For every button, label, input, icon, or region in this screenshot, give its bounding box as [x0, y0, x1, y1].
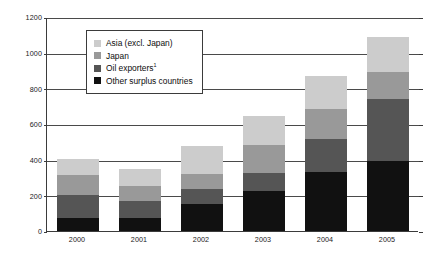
legend-swatch-icon: [94, 77, 101, 84]
bar-segment: [181, 174, 223, 189]
y-axis-tick-label: 200: [8, 193, 42, 200]
footnote-marker: 1: [153, 62, 156, 68]
bar-segment: [243, 145, 285, 173]
bar-segment: [119, 186, 161, 200]
bar-stack-2002: [181, 146, 223, 231]
x-axis-tick-label: 2002: [170, 236, 232, 243]
y-axis-tick-mark-right: [419, 125, 423, 126]
y-axis-tick-label: 0: [8, 228, 42, 235]
y-axis-tick-label: 1200: [8, 14, 42, 21]
bar-stack-2004: [305, 76, 347, 231]
bar-segment: [305, 109, 347, 139]
bar-stack-2005: [367, 37, 409, 231]
legend-swatch-icon: [94, 52, 101, 59]
chart-legend: Asia (excl. Japan)JapanOil exporters1Oth…: [86, 30, 203, 94]
bar-stack-2000: [57, 159, 99, 231]
y-axis-tick-mark: [44, 161, 48, 162]
bar-segment: [57, 218, 99, 231]
y-axis-tick-mark-right: [419, 232, 423, 233]
y-axis-tick-mark-right: [419, 161, 423, 162]
legend-item-label: Other surplus countries: [106, 77, 193, 85]
y-axis-tick-label: 400: [8, 157, 42, 164]
bar-segment: [243, 173, 285, 191]
y-axis-tick-mark: [44, 125, 48, 126]
stacked-bar-chart: 020040060080010001200 200020012002200320…: [0, 0, 431, 259]
bar-segment: [119, 169, 161, 186]
bar-segment: [243, 191, 285, 231]
y-axis-tick-mark: [44, 18, 48, 19]
x-axis-tick-label: 2004: [294, 236, 356, 243]
y-axis-tick-label: 1000: [8, 50, 42, 57]
bar-segment: [119, 218, 161, 231]
bar-segment: [305, 172, 347, 231]
bar-segment: [367, 72, 409, 99]
gridline: [47, 161, 419, 162]
y-axis-tick-mark: [44, 54, 48, 55]
bar-segment: [305, 139, 347, 172]
x-axis-tick-label: 2005: [356, 236, 418, 243]
y-axis-tick-mark: [44, 196, 48, 197]
bar-segment: [57, 175, 99, 196]
y-axis-tick-mark-right: [419, 89, 423, 90]
legend-swatch-icon: [94, 65, 101, 72]
legend-item: Asia (excl. Japan): [94, 37, 193, 50]
legend-item: Japan: [94, 50, 193, 63]
gridline: [47, 18, 419, 19]
bar-segment: [57, 195, 99, 217]
y-axis-tick-label: 600: [8, 121, 42, 128]
bar-segment: [181, 204, 223, 231]
bar-stack-2001: [119, 169, 161, 231]
legend-item: Other surplus countries: [94, 75, 193, 88]
legend-item-label: Asia (excl. Japan): [106, 39, 173, 47]
y-axis-tick-mark-right: [419, 54, 423, 55]
bar-segment: [367, 37, 409, 73]
x-axis-tick-label: 2000: [46, 236, 108, 243]
bar-segment: [367, 161, 409, 231]
y-axis-tick-label: 800: [8, 86, 42, 93]
gridline: [47, 196, 419, 197]
legend-item-label: Oil exporters1: [106, 64, 156, 72]
y-axis-tick-mark-right: [419, 18, 423, 19]
bar-segment: [181, 146, 223, 174]
y-axis-tick-mark-right: [419, 196, 423, 197]
gridline: [47, 125, 419, 126]
bar-segment: [181, 189, 223, 204]
bar-segment: [367, 99, 409, 161]
x-axis-tick-label: 2003: [232, 236, 294, 243]
bar-segment: [243, 116, 285, 145]
legend-swatch-icon: [94, 40, 101, 47]
bar-segment: [119, 201, 161, 218]
bar-segment: [305, 76, 347, 109]
y-axis-tick-mark: [44, 232, 48, 233]
bar-stack-2003: [243, 116, 285, 231]
bar-segment: [57, 159, 99, 175]
legend-item: Oil exporters1: [94, 62, 193, 75]
legend-item-label: Japan: [106, 52, 129, 60]
x-axis-tick-label: 2001: [108, 236, 170, 243]
y-axis-tick-mark: [44, 89, 48, 90]
